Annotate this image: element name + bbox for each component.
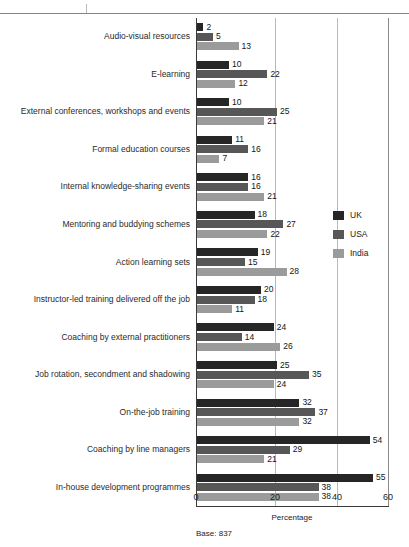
bar-india-5 [197, 230, 267, 238]
bar-usa-6 [197, 258, 245, 266]
bar-uk-11 [197, 436, 370, 444]
bar-uk-9 [197, 361, 277, 369]
bar-value-uk-4: 16 [251, 173, 260, 181]
bar-uk-6 [197, 248, 258, 256]
bar-value-india-10: 32 [302, 417, 311, 425]
bar-usa-9 [197, 371, 309, 379]
bar-value-uk-11: 54 [373, 436, 382, 444]
base-note: Base: 837 [196, 529, 232, 538]
bar-india-6 [197, 268, 287, 276]
bar-value-uk-0: 2 [206, 23, 211, 31]
bar-india-10 [197, 418, 299, 426]
bar-uk-1 [197, 61, 229, 69]
scan-artifact-line [0, 13, 409, 14]
bar-value-usa-7: 18 [258, 295, 267, 303]
category-label-6: Action learning sets [0, 257, 190, 267]
bar-india-12 [197, 493, 319, 501]
bar-value-usa-4: 16 [251, 182, 260, 190]
bar-value-uk-5: 18 [258, 210, 267, 218]
bar-india-9 [197, 380, 274, 388]
bar-value-usa-2: 25 [280, 107, 289, 115]
legend-label-uk: UK [350, 210, 362, 220]
bar-value-india-12: 38 [322, 492, 331, 500]
legend-item-uk: UK [333, 210, 368, 220]
legend-swatch-icon-india [333, 249, 344, 258]
x-tick-20: 20 [270, 492, 280, 502]
category-label-8: Coaching by external practitioners [0, 332, 190, 342]
bar-uk-2 [197, 98, 229, 106]
category-label-4: Internal knowledge-sharing events [0, 181, 190, 191]
bar-value-usa-10: 37 [318, 408, 327, 416]
bar-usa-4 [197, 183, 248, 191]
bar-value-india-3: 7 [222, 154, 227, 162]
bar-value-india-4: 21 [267, 192, 276, 200]
bar-india-2 [197, 117, 264, 125]
bar-value-usa-11: 29 [293, 445, 302, 453]
bar-usa-0 [197, 33, 213, 41]
x-tick-0: 0 [193, 492, 198, 502]
bar-value-usa-6: 15 [248, 258, 257, 266]
legend-label-india: India [350, 248, 368, 258]
bar-value-usa-8: 14 [245, 333, 254, 341]
category-label-1: E-learning [0, 69, 190, 79]
bar-value-india-5: 22 [270, 230, 279, 238]
bar-value-uk-3: 11 [235, 135, 244, 143]
bar-india-11 [197, 455, 264, 463]
bar-usa-1 [197, 70, 267, 78]
bar-india-4 [197, 193, 264, 201]
bar-value-usa-0: 5 [216, 32, 221, 40]
bar-value-uk-6: 19 [261, 248, 270, 256]
category-label-5: Mentoring and buddying schemes [0, 219, 190, 229]
bar-usa-11 [197, 446, 290, 454]
legend-swatch-icon-usa [333, 230, 344, 239]
bar-usa-8 [197, 333, 242, 341]
bar-value-usa-12: 38 [322, 483, 331, 491]
bar-value-india-2: 21 [267, 117, 276, 125]
bar-value-india-0: 13 [242, 42, 251, 50]
x-tick-60: 60 [383, 492, 393, 502]
bar-india-0 [197, 42, 239, 50]
legend: UK USA India [333, 210, 368, 267]
bar-uk-3 [197, 136, 232, 144]
bar-india-3 [197, 155, 219, 163]
bar-value-india-1: 12 [238, 79, 247, 87]
bar-india-1 [197, 80, 235, 88]
bar-usa-7 [197, 296, 255, 304]
bar-value-uk-12: 55 [376, 473, 385, 481]
gridline-60 [388, 18, 389, 506]
bar-uk-0 [197, 23, 203, 31]
bar-value-uk-8: 24 [277, 323, 286, 331]
x-axis-line [196, 506, 389, 507]
bar-value-uk-2: 10 [232, 98, 241, 106]
category-label-3: Formal education courses [0, 144, 190, 154]
bar-value-uk-7: 20 [264, 285, 273, 293]
bar-value-uk-10: 32 [302, 398, 311, 406]
bar-value-india-8: 26 [283, 342, 292, 350]
category-label-0: Audio-visual resources [0, 31, 190, 41]
bar-value-india-6: 28 [290, 267, 299, 275]
legend-label-usa: USA [350, 229, 367, 239]
category-label-10: On-the-job training [0, 407, 190, 417]
bar-usa-12 [197, 483, 319, 491]
x-tick-40: 40 [332, 492, 342, 502]
bar-value-uk-1: 10 [232, 60, 241, 68]
bar-value-india-11: 21 [267, 455, 276, 463]
bar-india-7 [197, 305, 232, 313]
bar-value-usa-1: 22 [270, 70, 279, 78]
category-label-11: Coaching by line managers [0, 444, 190, 454]
bar-uk-10 [197, 399, 299, 407]
bar-uk-4 [197, 173, 248, 181]
category-label-9: Job rotation, secondment and shadowing [0, 369, 190, 379]
scan-artifact-tick [86, 4, 87, 13]
bar-india-8 [197, 343, 280, 351]
bar-uk-7 [197, 286, 261, 294]
legend-item-india: India [333, 248, 368, 258]
bar-usa-10 [197, 408, 315, 416]
bar-uk-8 [197, 323, 274, 331]
category-label-2: External conferences, workshops and even… [0, 106, 190, 116]
bar-value-usa-3: 16 [251, 145, 260, 153]
bar-uk-5 [197, 211, 255, 219]
legend-swatch-icon-uk [333, 211, 344, 220]
bar-usa-2 [197, 108, 277, 116]
bar-usa-3 [197, 145, 248, 153]
